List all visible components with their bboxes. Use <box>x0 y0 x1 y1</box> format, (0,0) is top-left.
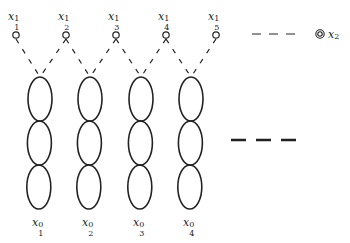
far-node-outer-circle <box>316 30 324 38</box>
loop-ellipse <box>128 165 152 209</box>
loop-ellipse <box>28 77 52 121</box>
dashed-edge <box>66 39 90 77</box>
node-circle <box>213 32 219 38</box>
node-circle <box>63 32 69 38</box>
dashed-edge <box>166 39 191 77</box>
node-circle <box>163 32 169 38</box>
dashed-edge <box>191 39 216 77</box>
loop-ellipse <box>78 77 102 121</box>
node-label-x1-1: x11 <box>8 11 20 22</box>
far-node-label-x-2: x2 <box>328 29 340 40</box>
dashed-edge <box>141 39 166 77</box>
chain-label-x2-0: x02 <box>82 217 94 228</box>
loop-ellipse <box>77 165 101 209</box>
node-label-x5-1: x15 <box>208 11 220 22</box>
dashed-edge <box>90 39 116 77</box>
loop-ellipse <box>128 121 152 165</box>
dashed-edge <box>16 39 40 77</box>
loop-ellipse <box>77 121 101 165</box>
chain-label-x4-0: x04 <box>183 217 195 228</box>
node-label-x2-1: x12 <box>58 11 70 22</box>
dashed-edge <box>116 39 141 77</box>
dashed-edge <box>40 39 66 77</box>
node-label-x4-1: x14 <box>158 11 170 22</box>
node-label-x3-1: x13 <box>108 11 120 22</box>
loop-ellipse <box>27 165 51 209</box>
loop-ellipse <box>27 121 51 165</box>
chain-label-x1-0: x01 <box>32 217 44 228</box>
diagram-canvas <box>0 0 350 243</box>
far-node-inner-circle <box>318 32 322 36</box>
node-circle <box>113 32 119 38</box>
node-circle <box>13 32 19 38</box>
loop-ellipse <box>179 77 203 121</box>
loop-ellipse <box>178 121 202 165</box>
chain-label-x3-0: x03 <box>133 217 145 228</box>
loop-ellipse <box>178 165 202 209</box>
loop-ellipse <box>129 77 153 121</box>
